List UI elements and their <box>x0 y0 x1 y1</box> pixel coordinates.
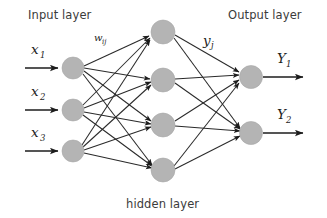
network-canvas: Input layer Output layer hidden layer w … <box>0 0 327 218</box>
output-layer-label: Output layer <box>228 8 302 22</box>
hidden-node-4[interactable] <box>151 158 175 182</box>
edge-h1-o2 <box>174 38 240 128</box>
input-node-x2[interactable] <box>62 99 84 121</box>
output-nodes-group <box>240 66 263 145</box>
input-subscript-x1: 1 <box>40 50 45 60</box>
edge-h2-o1 <box>175 75 239 79</box>
input-subscript-x2: 2 <box>39 92 45 102</box>
input-label-x1: x 1 <box>31 41 45 60</box>
edge-i3-h1 <box>82 40 150 145</box>
input-node-x1[interactable] <box>62 57 84 79</box>
hidden-to-output-edges <box>174 35 240 169</box>
output-label-Y2: Y 2 <box>277 106 291 125</box>
edge-i3-h3 <box>84 127 151 150</box>
input-to-hidden-edges <box>82 36 152 168</box>
edge-i1-h4 <box>83 74 152 165</box>
output-node-Y1[interactable] <box>240 66 263 89</box>
edge-h2-o2 <box>175 83 240 129</box>
neural-network-diagram: Input layer Output layer hidden layer w … <box>0 0 327 218</box>
input-symbol-x2: x <box>31 83 39 99</box>
edge-h3-o2 <box>175 126 240 131</box>
edge-h3-o1 <box>175 80 239 121</box>
input-label-x2: x 2 <box>31 83 45 102</box>
hidden-node-2[interactable] <box>151 68 175 92</box>
input-node-x3[interactable] <box>62 140 84 162</box>
input-layer-label: Input layer <box>28 8 92 22</box>
input-nodes-group <box>62 57 84 162</box>
activation-symbol: y <box>202 32 211 48</box>
edge-i3-h4 <box>84 153 152 168</box>
hidden-node-1[interactable] <box>151 20 175 44</box>
edge-i2-h2 <box>84 82 151 108</box>
output-node-Y2[interactable] <box>240 122 263 145</box>
output-subscript-Y2: 2 <box>285 115 291 125</box>
hidden-nodes-group <box>151 20 175 182</box>
edge-i1-h2 <box>84 68 150 79</box>
weight-label-group: w ij <box>94 32 107 46</box>
hidden-layer-label: hidden layer <box>126 197 199 211</box>
input-label-x3: x 3 <box>31 124 45 143</box>
output-label-Y1: Y 1 <box>277 50 291 69</box>
weight-subscript: ij <box>102 38 107 46</box>
output-arrows-group <box>263 77 303 133</box>
input-symbol-x1: x <box>31 41 39 57</box>
output-subscript-Y1: 1 <box>286 59 291 69</box>
input-subscript-x3: 3 <box>40 133 45 143</box>
hidden-node-3[interactable] <box>151 113 175 137</box>
activation-label-group: y j <box>202 32 214 50</box>
input-symbol-x3: x <box>31 124 39 140</box>
